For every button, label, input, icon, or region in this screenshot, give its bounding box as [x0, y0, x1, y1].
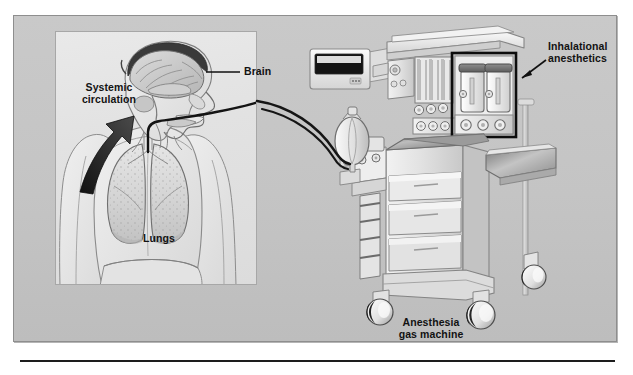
machine-side-tray [486, 144, 556, 185]
figure-root: Brain Systemic circulation Lungs Inhalat… [0, 0, 633, 375]
absorber-canister [360, 193, 380, 279]
machine-drawers [389, 172, 461, 271]
flowmeter-knobs [414, 103, 447, 114]
machine-top-shelf [387, 26, 524, 60]
caster-rear [521, 252, 546, 289]
label-anesthesia-gas-machine: Anesthesia gas machine [379, 316, 483, 340]
vaporizer-knobs [461, 120, 505, 130]
vaporizer-bottle-left [459, 64, 486, 112]
label-brain: Brain [244, 65, 271, 77]
footer-rule [20, 360, 615, 362]
label-systemic-circulation: Systemic circulation [64, 81, 154, 105]
vaporizer-assembly [452, 53, 516, 137]
label-inhalational-anesthetics: Inhalational anesthetics [548, 40, 630, 64]
vaporizer-bottle-right [485, 64, 512, 112]
machine-body [383, 134, 494, 300]
flowmeter-bank [413, 57, 457, 134]
lower-knob-row [417, 122, 450, 131]
label-lungs: Lungs [132, 232, 186, 244]
inhalational-anesthetics-arrow [522, 60, 546, 78]
machine-illustration [0, 0, 633, 375]
